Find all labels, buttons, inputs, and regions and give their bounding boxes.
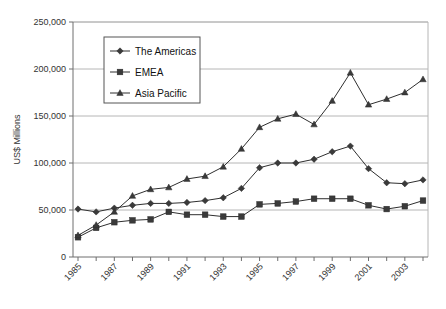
data-point bbox=[275, 160, 281, 166]
data-point bbox=[329, 149, 335, 155]
y-tick-label: 250,000 bbox=[33, 17, 66, 27]
data-point bbox=[402, 89, 408, 95]
x-tick-label: 1989 bbox=[135, 261, 156, 282]
y-tick-label: 0 bbox=[61, 252, 66, 262]
data-point bbox=[202, 197, 208, 203]
data-point bbox=[202, 212, 208, 218]
data-point bbox=[148, 217, 154, 223]
data-point bbox=[75, 206, 81, 212]
data-point bbox=[239, 214, 245, 220]
chart-container: 050,000100,000150,000200,000250,00019851… bbox=[0, 0, 446, 309]
y-tick-label: 150,000 bbox=[33, 111, 66, 121]
data-point bbox=[348, 196, 354, 202]
data-point bbox=[329, 98, 335, 104]
data-point bbox=[166, 200, 172, 206]
data-point bbox=[293, 160, 299, 166]
data-point bbox=[166, 184, 172, 190]
data-point bbox=[220, 214, 226, 220]
data-point bbox=[184, 212, 190, 218]
data-point bbox=[257, 202, 263, 208]
data-point bbox=[256, 124, 262, 130]
legend-label: Asia Pacific bbox=[135, 88, 187, 99]
y-tick-label: 50,000 bbox=[38, 205, 66, 215]
data-point bbox=[420, 76, 426, 82]
x-tick-label: 1999 bbox=[316, 261, 337, 282]
data-point bbox=[275, 201, 281, 207]
x-tick-label: 1991 bbox=[171, 261, 192, 282]
series-line bbox=[78, 146, 423, 212]
data-point bbox=[129, 202, 135, 208]
data-point bbox=[366, 202, 372, 208]
x-tick-label: 1987 bbox=[98, 261, 119, 282]
data-point bbox=[420, 177, 426, 183]
data-point bbox=[384, 206, 390, 212]
x-tick-label: 1995 bbox=[244, 261, 265, 282]
y-tick-label: 200,000 bbox=[33, 64, 66, 74]
data-point bbox=[293, 199, 299, 205]
data-point bbox=[311, 196, 317, 202]
series-emea bbox=[75, 196, 426, 240]
legend: The AmericasEMEAAsia Pacific bbox=[104, 37, 200, 103]
legend-label: EMEA bbox=[135, 67, 164, 78]
x-tick-label: 1985 bbox=[62, 261, 83, 282]
x-tick-label: 1997 bbox=[280, 261, 301, 282]
data-point bbox=[130, 218, 136, 224]
legend-label: The Americas bbox=[135, 46, 196, 57]
data-point bbox=[147, 200, 153, 206]
legend-marker-square bbox=[117, 69, 123, 75]
data-point bbox=[293, 111, 299, 117]
data-point bbox=[166, 209, 172, 215]
x-tick-label: 2003 bbox=[389, 261, 410, 282]
data-point bbox=[220, 195, 226, 201]
data-point bbox=[202, 173, 208, 179]
x-tick-label: 2001 bbox=[353, 261, 374, 282]
data-point bbox=[402, 180, 408, 186]
data-point bbox=[402, 203, 408, 209]
y-tick-label: 100,000 bbox=[33, 158, 66, 168]
data-point bbox=[93, 222, 99, 228]
x-tick-label: 1993 bbox=[207, 261, 228, 282]
line-chart: 050,000100,000150,000200,000250,00019851… bbox=[0, 0, 446, 309]
y-axis-title: US$ Millions bbox=[12, 114, 22, 165]
data-point bbox=[184, 199, 190, 205]
data-point bbox=[329, 196, 335, 202]
series-the-americas bbox=[75, 143, 426, 215]
data-point bbox=[111, 219, 117, 225]
data-point bbox=[420, 198, 426, 204]
data-point bbox=[347, 69, 353, 75]
data-point bbox=[311, 156, 317, 162]
